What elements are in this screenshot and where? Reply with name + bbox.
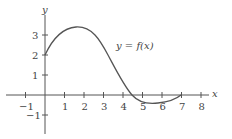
y-tick-label: 2 [32,50,38,61]
y-tick-label: 1 [32,70,38,81]
x-tick-label: 1 [62,101,68,112]
x-tick-label: 8 [199,101,205,112]
y-axis-label: y [41,4,48,15]
x-tick-label: 4 [121,101,127,112]
function-label: y = f(x) [115,40,154,51]
x-tick-labels: −1 1 2 3 4 5 6 7 8 [19,101,205,112]
x-tick-label: 2 [82,101,88,112]
x-tick-label: 3 [101,101,107,112]
x-tick-label: 7 [179,101,185,112]
graph-canvas: −1 1 2 3 4 5 6 7 8 3 2 1 −1 x y y = f(x) [0,0,232,139]
x-axis-label: x [212,88,218,99]
function-curve [45,27,181,103]
function-graph: −1 1 2 3 4 5 6 7 8 3 2 1 −1 x y y = f(x) [0,0,232,139]
y-tick-label: −1 [26,110,41,121]
y-tick-label: 3 [32,30,38,41]
